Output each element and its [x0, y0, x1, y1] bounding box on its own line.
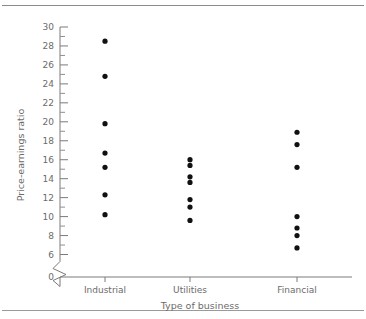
data-point: [294, 245, 299, 250]
y-axis-tick-label: 24: [43, 79, 55, 89]
data-point: [102, 212, 107, 217]
y-axis-tick-label: 30: [43, 22, 55, 32]
y-axis-tick-label: 18: [43, 136, 55, 146]
data-point: [187, 180, 192, 185]
data-point: [102, 121, 107, 126]
data-point: [294, 214, 299, 219]
y-axis-tick-label: 8: [48, 231, 54, 241]
y-axis-origin-label: 0: [48, 272, 54, 282]
figure-container: 6810121416182022242628300Price-earnings …: [0, 0, 366, 319]
data-point: [102, 165, 107, 170]
data-point: [294, 142, 299, 147]
data-point: [294, 130, 299, 135]
data-point: [187, 157, 192, 162]
data-point: [187, 197, 192, 202]
y-axis-tick-label: 22: [43, 98, 54, 108]
y-axis-tick-label: 26: [43, 60, 55, 70]
x-axis-category-label-industrial: Industrial: [84, 285, 126, 295]
y-axis-title: Price-earnings ratio: [15, 109, 26, 202]
y-axis-tick-label: 16: [43, 155, 55, 165]
data-point: [102, 39, 107, 44]
y-axis-tick-label: 20: [43, 117, 55, 127]
dotplot-chart: 6810121416182022242628300Price-earnings …: [0, 0, 366, 319]
y-axis-tick-label: 14: [43, 174, 55, 184]
data-point: [294, 233, 299, 238]
y-axis-tick-label: 10: [43, 212, 55, 222]
data-point: [187, 218, 192, 223]
y-axis-tick-label: 28: [43, 41, 55, 51]
data-point: [187, 163, 192, 168]
data-point: [102, 74, 107, 79]
data-point: [187, 205, 192, 210]
x-axis-category-label-utilities: Utilities: [173, 285, 207, 295]
x-axis-title: Type of business: [160, 300, 239, 311]
y-axis-tick-label: 12: [43, 193, 54, 203]
x-axis-category-label-financial: Financial: [277, 285, 316, 295]
data-point: [187, 174, 192, 179]
data-point: [102, 192, 107, 197]
y-axis-tick-label: 6: [48, 250, 54, 260]
data-point: [294, 165, 299, 170]
data-point: [294, 225, 299, 230]
data-point: [102, 150, 107, 155]
